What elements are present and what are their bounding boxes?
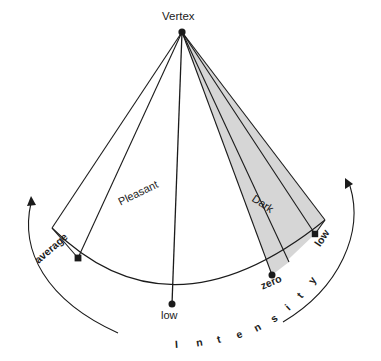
cone-axis-center (172, 32, 182, 304)
intensity-arrow-right-head (345, 178, 353, 189)
vertex-label: Vertex (162, 11, 195, 23)
intensity-arrow-left-head (27, 196, 36, 206)
cone-edge-average (78, 32, 182, 258)
tick-label-low-left: low (161, 310, 178, 321)
intensity-arrow-left-shaft (29, 203, 118, 333)
node-dot-average (75, 255, 82, 262)
cone-edge-dark-inner (182, 32, 289, 262)
cone-diagram: Vertex Pleasant Dark average low zero lo… (0, 0, 381, 361)
vertex-dot (178, 28, 185, 35)
region-dark-fill (182, 32, 325, 275)
diagram-canvas (0, 0, 381, 361)
node-dot-low-left (169, 301, 176, 308)
axis-letter-0: I (175, 338, 179, 350)
